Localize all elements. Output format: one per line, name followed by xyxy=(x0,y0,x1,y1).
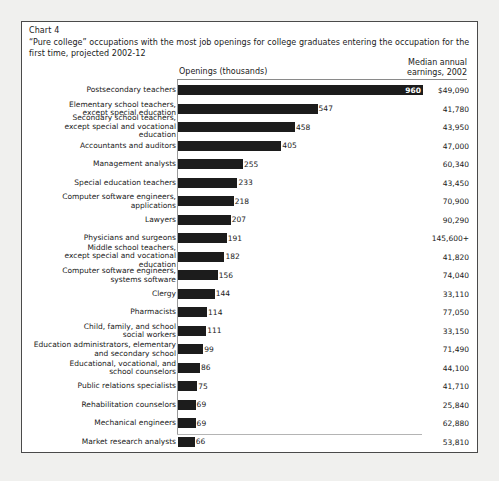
bar-wrapper: 255 xyxy=(178,159,258,169)
earnings-value: 43,950 xyxy=(379,123,469,132)
bar-row-label: Child, family, and school social workers xyxy=(28,322,176,339)
bar-value-label: 207 xyxy=(232,215,246,224)
bar-value-label: 547 xyxy=(319,104,333,113)
bar xyxy=(178,196,234,206)
earnings-value: 41,820 xyxy=(379,252,469,261)
bar xyxy=(178,289,215,299)
bar-value-label: 69 xyxy=(197,419,207,428)
bar-row-label: Management analysts xyxy=(28,160,176,169)
earnings-header-line-2: earnings, 2002 xyxy=(347,68,467,78)
earnings-value: 74,040 xyxy=(379,271,469,280)
bar-wrapper: 66 xyxy=(178,437,205,447)
bar-value-label: 111 xyxy=(207,326,221,335)
earnings-value: 25,840 xyxy=(379,400,469,409)
bar-wrapper: 99 xyxy=(178,344,214,354)
chart-number: Chart 4 xyxy=(29,26,59,35)
bar xyxy=(178,344,203,354)
bar-value-label: 156 xyxy=(219,271,233,280)
bar-row-label: Computer software engineers, systems sof… xyxy=(28,267,176,284)
chart-container: Chart 4 “Pure college” occupations with … xyxy=(21,21,478,453)
earnings-value: 145,600+ xyxy=(379,234,469,243)
bar-value-label: 458 xyxy=(296,123,310,132)
earnings-value: 53,810 xyxy=(379,437,469,446)
bar-row: Rehabilitation counselors6925,840 xyxy=(22,396,478,415)
bar xyxy=(178,437,195,447)
bar-row-label: Education administrators, elementary and… xyxy=(28,341,176,358)
bar xyxy=(178,104,318,114)
bar-row-label: Accountants and auditors xyxy=(28,142,176,151)
earnings-value: 33,110 xyxy=(379,289,469,298)
bar-value-label: 218 xyxy=(235,197,249,206)
bar-value-label: 86 xyxy=(201,363,211,372)
header-rule xyxy=(177,79,467,80)
bar-value-label: 255 xyxy=(244,160,258,169)
bar xyxy=(178,326,206,336)
bar-row: Lawyers20790,290 xyxy=(22,211,478,230)
bar xyxy=(178,141,281,151)
bar-wrapper: 156 xyxy=(178,270,233,280)
bar xyxy=(178,215,231,225)
bar-wrapper: 86 xyxy=(178,363,210,373)
bar-wrapper: 218 xyxy=(178,196,249,206)
bar-wrapper: 69 xyxy=(178,400,206,410)
bar-row: Special education teachers23343,450 xyxy=(22,174,478,193)
bar xyxy=(178,159,243,169)
bar-value-label: 114 xyxy=(208,308,222,317)
bar-row-label: Market research analysts xyxy=(28,438,176,447)
bar-row: Accountants and auditors40547,000 xyxy=(22,137,478,156)
bar-row-label: Lawyers xyxy=(28,216,176,225)
bar-row-label: Pharmacists xyxy=(28,308,176,317)
bar-row-label: Clergy xyxy=(28,290,176,299)
bar xyxy=(178,363,200,373)
earnings-value: 47,000 xyxy=(379,141,469,150)
bar xyxy=(178,307,207,317)
column-header-openings: Openings (thousands) xyxy=(179,67,267,76)
bar-row-label: Computer software engineers, application… xyxy=(28,193,176,210)
earnings-value: 71,490 xyxy=(379,345,469,354)
bar-row: Market research analysts6653,810 xyxy=(22,433,478,452)
earnings-value: 41,710 xyxy=(379,382,469,391)
bar-wrapper: 191 xyxy=(178,233,242,243)
bar-wrapper: 233 xyxy=(178,178,253,188)
bar xyxy=(178,400,196,410)
bar-row: Secondary school teachers, except specia… xyxy=(22,118,478,137)
earnings-value: 62,880 xyxy=(379,419,469,428)
bar-row: Public relations specialists7541,710 xyxy=(22,377,478,396)
bar-row: Child, family, and school social workers… xyxy=(22,322,478,341)
bar-wrapper: 144 xyxy=(178,289,230,299)
bar-row-label: Postsecondary teachers xyxy=(28,86,176,95)
bar xyxy=(178,270,218,280)
bar-wrapper: 111 xyxy=(178,326,222,336)
bar-row-label: Mechanical engineers xyxy=(28,419,176,428)
bar-rows: Postsecondary teachers960$49,090Elementa… xyxy=(22,81,478,451)
chart-title: “Pure college” occupations with the most… xyxy=(29,37,471,59)
bar-wrapper: 69 xyxy=(178,418,206,428)
bar-wrapper: 114 xyxy=(178,307,222,317)
bar-value-label: 66 xyxy=(196,437,206,446)
earnings-value: 60,340 xyxy=(379,160,469,169)
bar-row: Management analysts25560,340 xyxy=(22,155,478,174)
bar xyxy=(178,122,295,132)
earnings-value: 44,100 xyxy=(379,363,469,372)
earnings-value: 41,780 xyxy=(379,104,469,113)
earnings-value: $49,090 xyxy=(379,86,469,95)
bar-wrapper: 75 xyxy=(178,381,208,391)
bar-wrapper: 207 xyxy=(178,215,246,225)
bar-value-label: 69 xyxy=(197,400,207,409)
bar-wrapper: 405 xyxy=(178,141,297,151)
bar xyxy=(178,418,196,428)
earnings-value: 43,450 xyxy=(379,178,469,187)
bar-wrapper: 547 xyxy=(178,104,333,114)
earnings-header-line-1: Median annual xyxy=(347,58,467,68)
earnings-value: 77,050 xyxy=(379,308,469,317)
bar-row-label: Educational, vocational, and school coun… xyxy=(28,359,176,376)
bar-value-label: 99 xyxy=(204,345,214,354)
bar-value-label: 75 xyxy=(198,382,208,391)
bar-value-label: 144 xyxy=(216,289,230,298)
bar-row: Computer software engineers, systems sof… xyxy=(22,266,478,285)
bar-row: Clergy14433,110 xyxy=(22,285,478,304)
bar-row-label: Special education teachers xyxy=(28,179,176,188)
bar-row: Educational, vocational, and school coun… xyxy=(22,359,478,378)
bar-row-label: Rehabilitation counselors xyxy=(28,401,176,410)
bar-row-label: Public relations specialists xyxy=(28,382,176,391)
